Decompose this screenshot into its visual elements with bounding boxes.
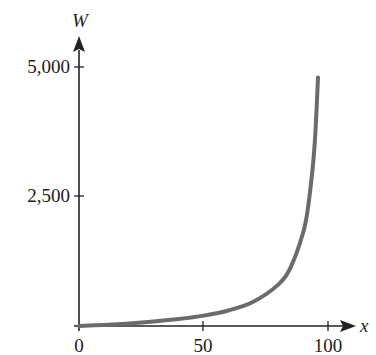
chart: 0 50 100 2,500 5,000 x W: [0, 0, 376, 355]
y-tick-label-2500: 2,500: [27, 185, 70, 206]
x-tick-label-100: 100: [314, 335, 343, 355]
x-tick-label-0: 0: [74, 335, 84, 355]
x-tick-label-50: 50: [194, 335, 213, 355]
x-axis-label: x: [359, 315, 369, 336]
y-axis-label: W: [72, 10, 90, 31]
y-axis-arrow-icon: [73, 36, 85, 52]
data-line-W: [79, 77, 318, 326]
y-tick-label-5000: 5,000: [27, 56, 70, 77]
